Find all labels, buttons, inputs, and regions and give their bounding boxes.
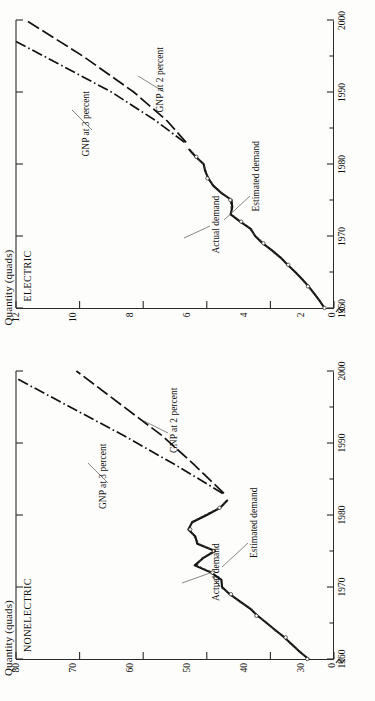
ytick-el-0: 12 bbox=[11, 313, 21, 323]
ytick-el-2: 8 bbox=[125, 313, 135, 318]
xtick-ne-1: 1970 bbox=[337, 578, 347, 597]
xtick-ne-3: 1990 bbox=[337, 434, 347, 453]
annotation-estimated-demand-el: Estimated demand bbox=[252, 141, 262, 211]
annotation-gnp-2-percent-el: GNP at 2 percent bbox=[156, 47, 166, 112]
xtick-el-2: 1980 bbox=[337, 155, 347, 174]
ytick-ne-1: 70 bbox=[68, 663, 78, 673]
ytick-el-1: 10 bbox=[68, 313, 78, 323]
annotation-gnp-2-percent-ne: GNP at 2 percent bbox=[170, 388, 180, 453]
panel-electric: Quantity (quads) ELECTRIC 12 10 8 6 4 2 … bbox=[0, 0, 375, 350]
annotation-gnp-3-percent-el: GNP at 3 percent bbox=[82, 91, 92, 156]
ytick-ne-2: 60 bbox=[125, 663, 135, 673]
ytick-el-zero: 0 bbox=[327, 313, 337, 318]
panel-nonelectric: Quantity (quads) NONELECTRIC 80 70 60 50… bbox=[0, 351, 375, 701]
plot-area-electric: 12 10 8 6 4 2 0 1960 1970 1980 1990 2000… bbox=[16, 22, 334, 310]
annotation-actual-demand-ne: Actual demand bbox=[212, 543, 222, 601]
ytick-ne-4: 40 bbox=[239, 663, 249, 673]
ytick-el-5: 2 bbox=[296, 313, 306, 318]
xtick-el-1: 1970 bbox=[337, 227, 347, 246]
figure-rotator: Quantity (quads) NONELECTRIC 80 70 60 50… bbox=[0, 0, 375, 701]
xtick-ne-0: 1960 bbox=[337, 650, 347, 669]
xtick-el-0: 1960 bbox=[337, 299, 347, 318]
figure-panels: Quantity (quads) NONELECTRIC 80 70 60 50… bbox=[0, 0, 375, 701]
annotation-actual-demand-el: Actual demand bbox=[212, 196, 222, 254]
plot-area-nonelectric: 80 70 60 50 40 30 0 1960 1970 1980 1990 … bbox=[16, 372, 334, 660]
xtick-ne-4: 2000 bbox=[337, 362, 347, 381]
ytick-el-4: 4 bbox=[239, 313, 249, 318]
annotation-gnp-3-percent-ne: GNP at 3 percent bbox=[99, 444, 109, 509]
ytick-ne-0: 80 bbox=[11, 663, 21, 673]
ytick-ne-3: 50 bbox=[182, 663, 192, 673]
xtick-ne-2: 1980 bbox=[337, 506, 347, 525]
xtick-el-4: 2000 bbox=[337, 11, 347, 30]
annotation-estimated-demand-ne: Estimated demand bbox=[250, 488, 260, 558]
ytick-ne-5: 30 bbox=[296, 663, 306, 673]
xtick-el-3: 1990 bbox=[337, 83, 347, 102]
ytick-el-3: 6 bbox=[182, 313, 192, 318]
ytick-ne-zero: 0 bbox=[327, 663, 337, 668]
